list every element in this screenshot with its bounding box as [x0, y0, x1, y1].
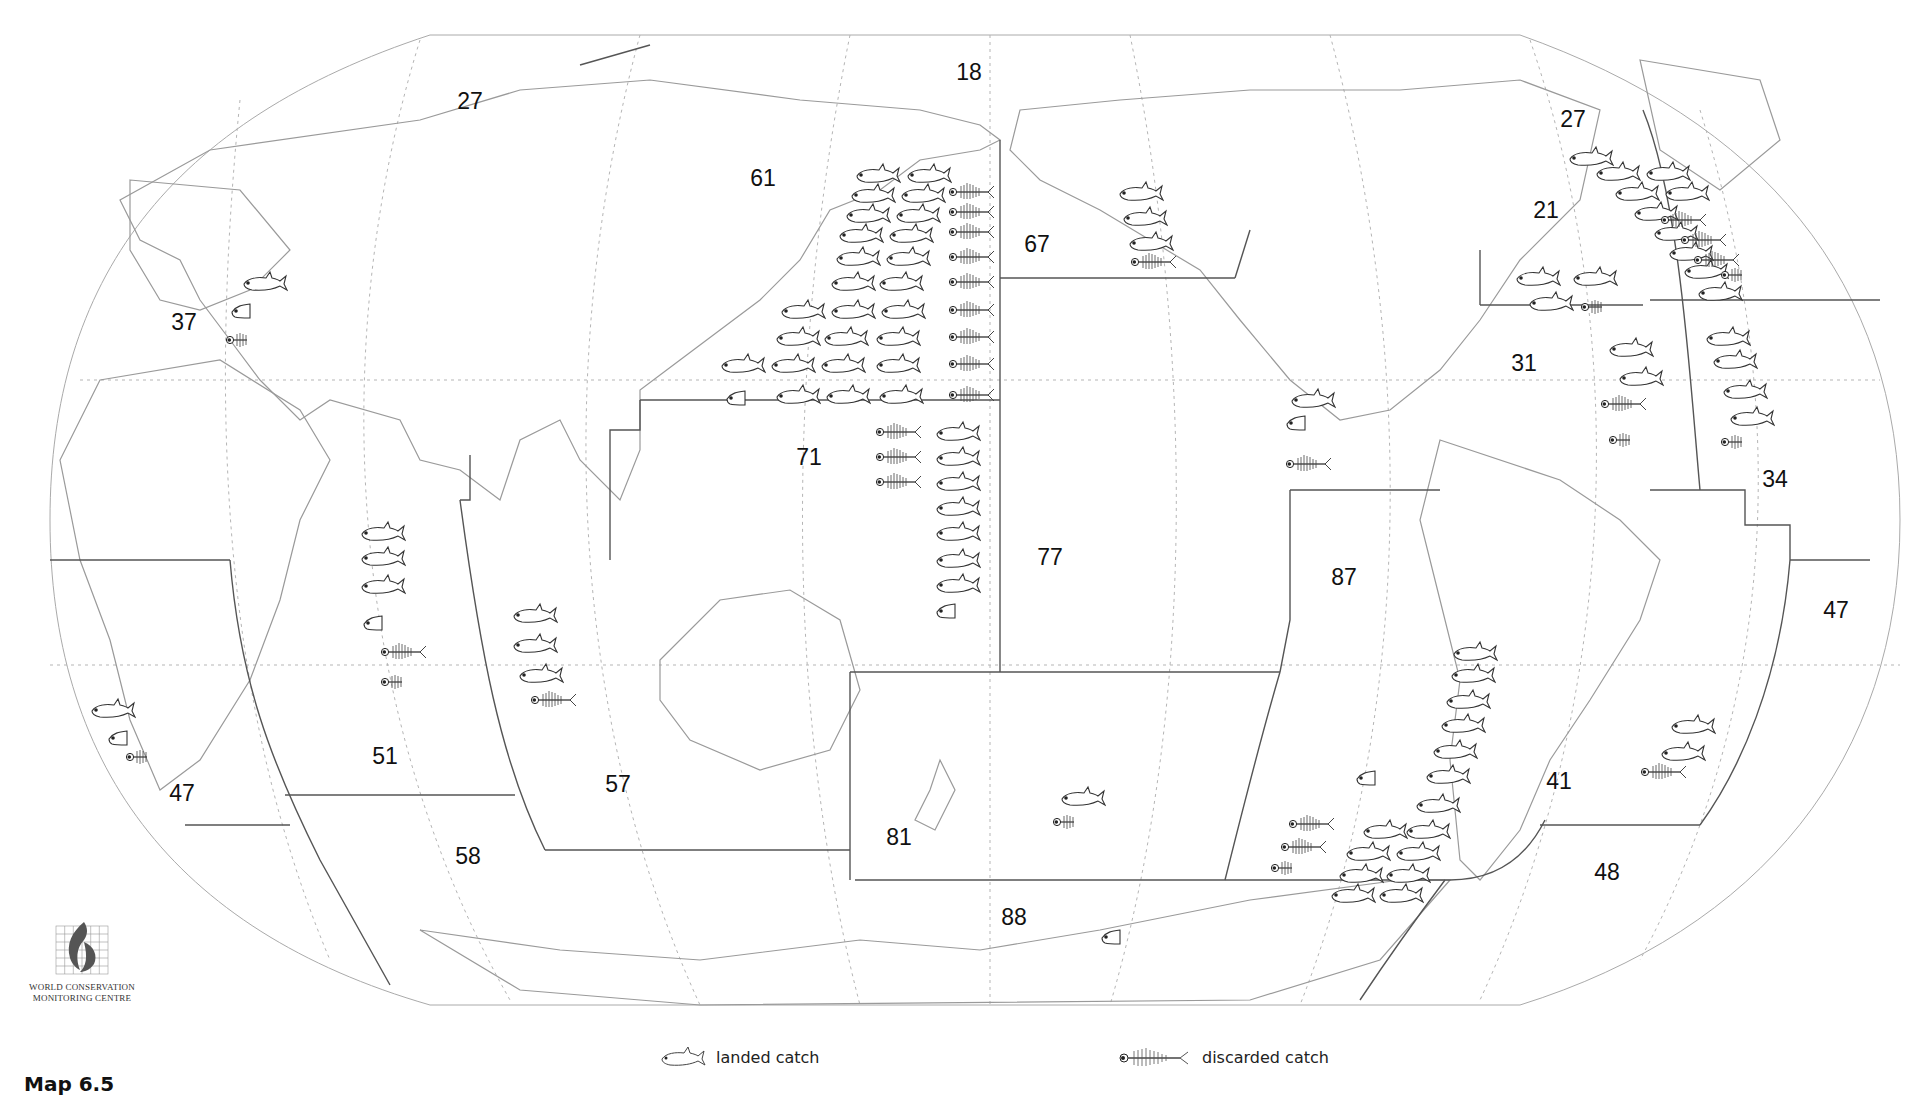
landed-catch-fish-icon	[1378, 882, 1424, 906]
wcmc-logo: WORLD CONSERVATION MONITORING CENTRE	[22, 920, 142, 1004]
landed-catch-fish-icon	[1060, 785, 1106, 809]
wcmc-logo-icon	[54, 920, 110, 978]
landed-catch-fish-icon	[935, 420, 981, 444]
landed-catch-fish-icon	[775, 325, 821, 349]
discarded-catch-skeleton-icon	[948, 245, 996, 269]
landed-catch-fish-icon	[1405, 818, 1451, 842]
landed-catch-fish-icon	[1415, 792, 1461, 816]
landed-catch-fish-icon	[830, 270, 876, 294]
discarded-catch-partial-skeleton-icon	[125, 745, 151, 769]
area-label-61: 61	[750, 165, 776, 192]
landed-catch-fish-icon	[1345, 840, 1391, 864]
logo-text-line2: MONITORING CENTRE	[22, 993, 142, 1004]
landed-catch-fish-icon	[1452, 640, 1498, 664]
area-label-51: 51	[372, 743, 398, 770]
discarded-catch-skeleton-icon	[1285, 452, 1333, 476]
landed-catch-partial-fish-icon	[1100, 924, 1124, 948]
landed-catch-fish-icon	[360, 573, 406, 597]
area-label-18: 18	[956, 59, 982, 86]
landed-catch-fish-icon	[935, 572, 981, 596]
landed-catch-fish-icon	[512, 632, 558, 656]
area-label-71: 71	[796, 444, 822, 471]
discarded-catch-partial-skeleton-icon	[1052, 810, 1078, 834]
landed-catch-fish-icon	[935, 495, 981, 519]
landed-catch-fish-icon	[875, 325, 921, 349]
landed-catch-partial-fish-icon	[1285, 410, 1309, 434]
landed-catch-fish-icon	[1432, 738, 1478, 762]
area-label-87: 87	[1331, 564, 1357, 591]
landed-catch-fish-icon	[1395, 840, 1441, 864]
landed-catch-fish-icon	[838, 222, 884, 246]
legend-discarded-catch: discarded catch	[1118, 1045, 1329, 1069]
landed-catch-fish-icon	[935, 470, 981, 494]
landed-catch-fish-icon	[90, 697, 136, 721]
discarded-catch-skeleton-icon	[380, 640, 428, 664]
landed-catch-fish-icon	[360, 545, 406, 569]
area-label-48: 48	[1594, 859, 1620, 886]
landed-catch-fish-icon	[242, 270, 288, 294]
discarded-catch-skeleton-icon	[1288, 812, 1336, 836]
landed-catch-fish-icon	[935, 547, 981, 571]
area-label-67: 67	[1024, 231, 1050, 258]
discarded-catch-skeleton-icon	[948, 270, 996, 294]
discarded-catch-partial-skeleton-icon	[1720, 430, 1746, 454]
landed-catch-fish-icon	[1618, 365, 1664, 389]
landed-catch-fish-icon	[1122, 205, 1168, 229]
discarded-catch-partial-skeleton-icon	[1270, 856, 1296, 880]
discarded-catch-partial-skeleton-icon	[1720, 263, 1746, 287]
landed-catch-fish-icon	[360, 520, 406, 544]
landed-catch-fish-icon	[878, 383, 924, 407]
discarded-catch-skeleton-icon	[948, 220, 996, 244]
landed-catch-fish-icon	[1425, 763, 1471, 787]
discarded-catch-skeleton-icon	[530, 688, 578, 712]
area-label-47: 47	[1823, 597, 1849, 624]
area-label-47: 47	[169, 780, 195, 807]
landed-catch-fish-icon	[875, 352, 921, 376]
landed-catch-fish-icon	[1290, 387, 1336, 411]
landed-catch-fish-icon	[1722, 378, 1768, 402]
landed-catch-fish-icon	[878, 270, 924, 294]
discarded-catch-skeleton-icon	[1130, 250, 1178, 274]
legend-landed-catch: landed catch	[660, 1045, 819, 1069]
landed-catch-fish-icon	[1330, 882, 1376, 906]
discarded-catch-skeleton-icon	[1640, 760, 1688, 784]
discarded-catch-partial-skeleton-icon	[1608, 428, 1634, 452]
area-label-41: 41	[1546, 768, 1572, 795]
area-label-21: 21	[1533, 197, 1559, 224]
landed-catch-fish-icon	[888, 222, 934, 246]
area-label-31: 31	[1511, 350, 1537, 377]
landed-catch-fish-icon	[935, 445, 981, 469]
landed-catch-fish-icon	[820, 352, 866, 376]
landed-catch-partial-fish-icon	[230, 298, 254, 322]
landed-catch-fish-icon	[1670, 713, 1716, 737]
discarded-catch-partial-skeleton-icon	[225, 328, 251, 352]
landed-catch-fish-icon	[775, 383, 821, 407]
discarded-catch-skeleton-icon	[948, 325, 996, 349]
landed-catch-fish-icon	[935, 520, 981, 544]
area-label-27: 27	[1560, 106, 1586, 133]
landed-catch-partial-fish-icon	[725, 385, 749, 409]
landed-catch-fish-icon	[830, 298, 876, 322]
discarded-catch-skeleton-icon	[948, 383, 996, 407]
area-label-77: 77	[1037, 544, 1063, 571]
fish-skeleton-icon	[1118, 1045, 1192, 1069]
discarded-catch-partial-skeleton-icon	[1580, 295, 1606, 319]
landed-catch-fish-icon	[1118, 180, 1164, 204]
landed-catch-fish-icon	[770, 352, 816, 376]
landed-catch-fish-icon	[1608, 336, 1654, 360]
logo-text-line1: WORLD CONSERVATION	[22, 982, 142, 993]
landed-catch-fish-icon	[835, 245, 881, 269]
landed-catch-fish-icon	[825, 383, 871, 407]
discarded-catch-skeleton-icon	[948, 298, 996, 322]
landed-catch-fish-icon	[1362, 818, 1408, 842]
landed-catch-fish-icon	[1705, 325, 1751, 349]
area-label-81: 81	[886, 824, 912, 851]
landed-catch-fish-icon	[1729, 405, 1775, 429]
discarded-catch-skeleton-icon	[875, 420, 923, 444]
discarded-catch-skeleton-icon	[875, 470, 923, 494]
landed-catch-fish-icon	[1572, 265, 1618, 289]
discarded-catch-skeleton-icon	[948, 352, 996, 376]
landed-catch-fish-icon	[1445, 688, 1491, 712]
map-title: Map 6.5	[24, 1072, 114, 1096]
landed-catch-fish-icon	[885, 245, 931, 269]
